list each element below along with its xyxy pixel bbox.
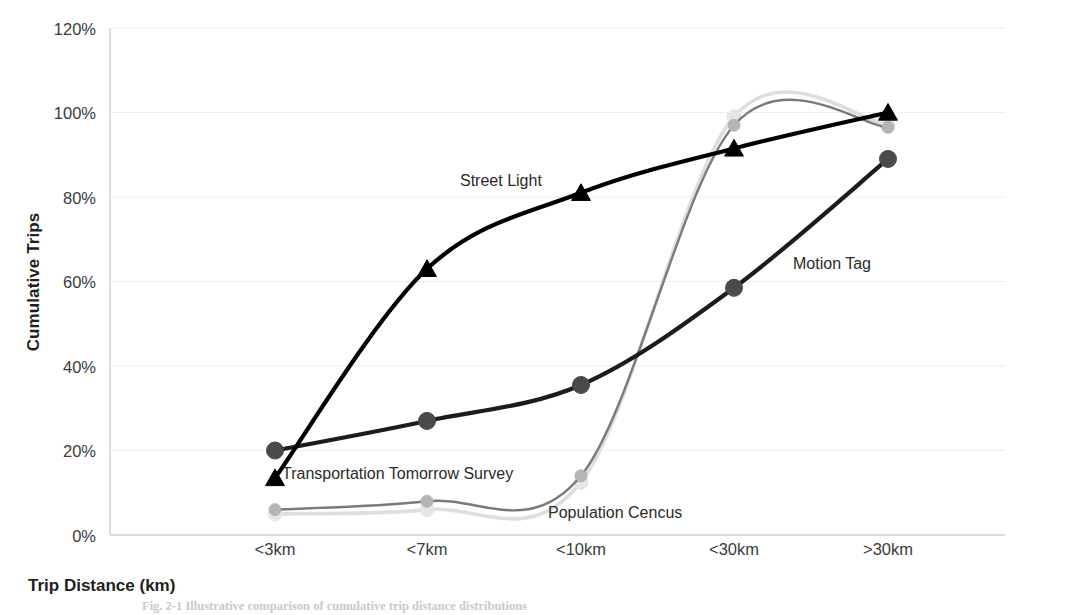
series-label-street-light: Street Light: [460, 172, 542, 190]
y-tick-label-40: 40%: [24, 358, 96, 377]
series-label-population-cencus: Population Cencus: [548, 504, 682, 522]
series-label-motion-tag: Motion Tag: [793, 255, 871, 273]
x-tick-label-over30km: >30km: [833, 540, 943, 559]
y-tick-label-0: 0%: [24, 527, 96, 546]
y-tick-label-20: 20%: [24, 442, 96, 461]
y-tick-label-60: 60%: [24, 273, 96, 292]
x-tick-label-7km: <7km: [372, 540, 482, 559]
plot-area: [0, 0, 1081, 615]
x-tick-label-3km: <3km: [220, 540, 330, 559]
y-tick-label-80: 80%: [24, 189, 96, 208]
series-label-transportation-tomorrow-survey: Transportation Tomorrow Survey: [282, 465, 513, 483]
figure-caption: Fig. 2-1 Illustrative comparison of cumu…: [142, 599, 527, 615]
grid-lines: [110, 28, 1005, 451]
y-tick-label-120: 120%: [24, 20, 96, 39]
x-axis-title: Trip Distance (km): [28, 576, 175, 596]
x-tick-label-10km: <10km: [526, 540, 636, 559]
x-tick-label-30km: <30km: [679, 540, 789, 559]
y-tick-label-100: 100%: [24, 104, 96, 123]
data-series: [266, 92, 898, 521]
chart-figure: Cumulative Trips Trip Distance (km) 120%…: [0, 0, 1081, 615]
